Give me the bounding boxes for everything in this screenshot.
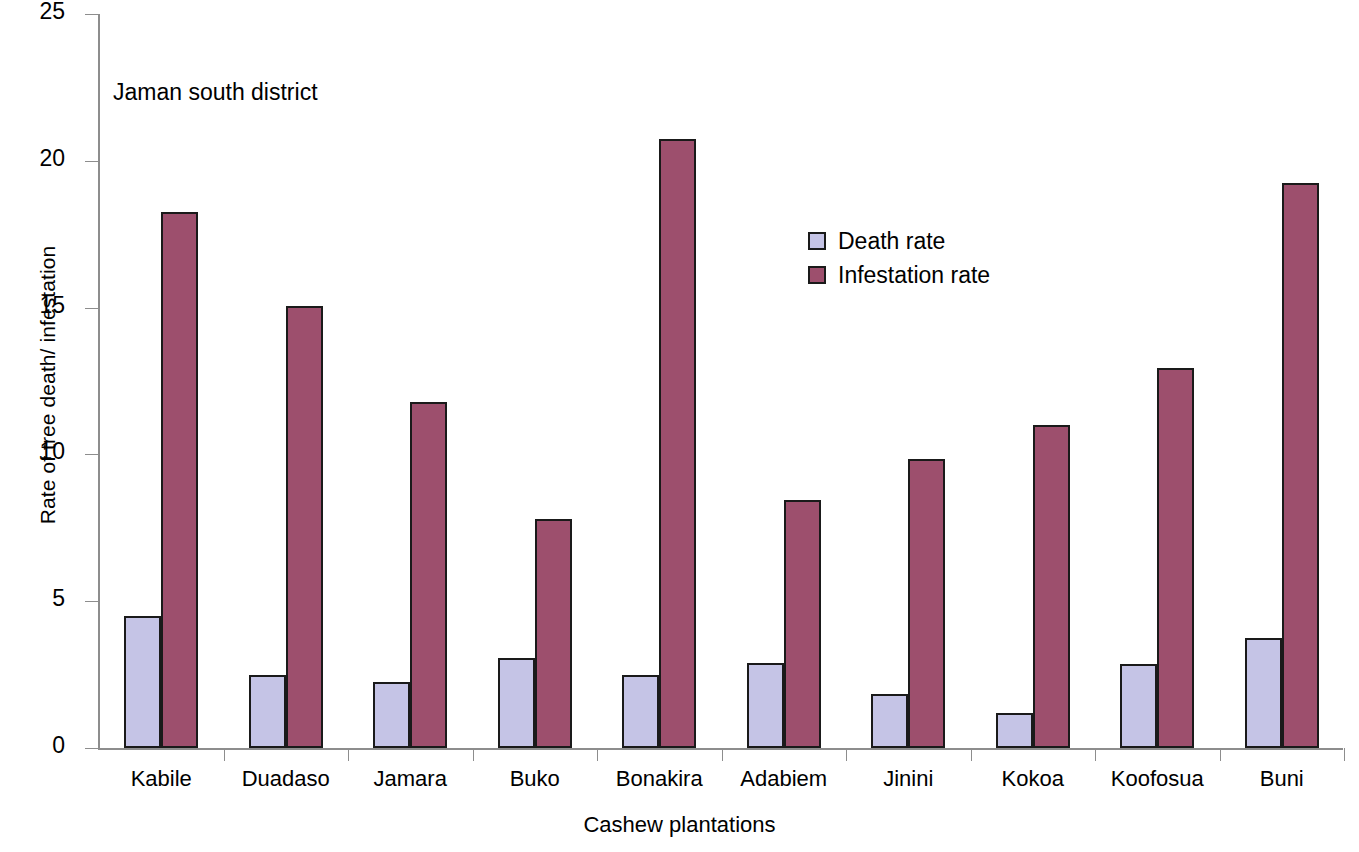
x-axis-tick — [473, 748, 474, 761]
bar-infestation-rate — [784, 500, 821, 748]
x-axis-category-label: Kokoa — [971, 766, 1096, 792]
y-axis-tick — [85, 14, 99, 15]
bar-infestation-rate — [659, 139, 696, 748]
bar-infestation-rate — [410, 402, 447, 748]
x-axis-category-label: Bonakira — [597, 766, 722, 792]
bar-death-rate — [996, 713, 1033, 748]
y-axis-tick-label: 5 — [17, 587, 65, 610]
bar-infestation-rate — [908, 459, 945, 748]
bar-death-rate — [249, 675, 286, 748]
x-axis-category-label: Jinini — [846, 766, 971, 792]
x-axis-category-label: Koofosua — [1095, 766, 1220, 792]
bar-death-rate — [747, 663, 784, 748]
bar-infestation-rate — [535, 519, 572, 748]
x-axis-tick — [224, 748, 225, 761]
x-axis-tick — [846, 748, 847, 761]
x-axis-line — [98, 748, 1343, 750]
bar-death-rate — [622, 675, 659, 748]
x-axis-category-label: Kabile — [99, 766, 224, 792]
x-axis-tick — [722, 748, 723, 761]
y-axis-line — [98, 14, 100, 749]
x-axis-category-label: Buko — [473, 766, 598, 792]
y-axis-tick-label: 15 — [17, 294, 65, 317]
x-axis-tick — [1220, 748, 1221, 761]
legend-item-death-rate: Death rate — [808, 224, 990, 258]
bar-death-rate — [1120, 664, 1157, 748]
bar-death-rate — [124, 616, 161, 748]
x-axis-category-label: Duadaso — [224, 766, 349, 792]
bar-death-rate — [498, 658, 535, 748]
x-axis-tick — [348, 748, 349, 761]
bar-infestation-rate — [1033, 425, 1070, 748]
legend-swatch-icon-infestation-rate — [808, 266, 826, 284]
bar-infestation-rate — [1282, 183, 1319, 748]
x-axis-tick — [1344, 748, 1345, 761]
bar-infestation-rate — [286, 306, 323, 748]
x-axis-category-label: Jamara — [348, 766, 473, 792]
x-axis-category-label: Buni — [1220, 766, 1345, 792]
x-axis-tick — [1095, 748, 1096, 761]
y-axis-tick — [85, 748, 99, 749]
legend-swatch-icon-death-rate — [808, 232, 826, 250]
y-axis-tick-label: 20 — [17, 147, 65, 170]
y-axis-tick-label: 0 — [17, 734, 65, 757]
bar-chart: Rate of tree death/ infestation 05101520… — [0, 0, 1359, 852]
x-axis-category-label: Adabiem — [722, 766, 847, 792]
y-axis-tick-label: 25 — [17, 0, 65, 23]
legend-item-infestation-rate: Infestation rate — [808, 258, 990, 292]
bar-infestation-rate — [161, 212, 198, 748]
y-axis-tick — [85, 308, 99, 309]
legend-label-death-rate: Death rate — [838, 228, 945, 255]
y-axis-tick — [85, 454, 99, 455]
y-axis-tick — [85, 601, 99, 602]
legend-label-infestation-rate: Infestation rate — [838, 262, 990, 289]
x-axis-title: Cashew plantations — [0, 812, 1359, 838]
bar-death-rate — [1245, 638, 1282, 748]
chart-annotation: Jaman south district — [113, 79, 318, 106]
bar-infestation-rate — [1157, 368, 1194, 748]
bar-death-rate — [373, 682, 410, 748]
y-axis-tick-label: 10 — [17, 440, 65, 463]
legend: Death rate Infestation rate — [808, 224, 990, 292]
bar-death-rate — [871, 694, 908, 748]
x-axis-tick — [971, 748, 972, 761]
y-axis-tick — [85, 161, 99, 162]
x-axis-tick — [597, 748, 598, 761]
